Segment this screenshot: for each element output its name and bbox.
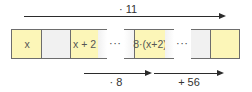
ellipsis-2: ··· (176, 37, 189, 49)
top-arrow-label: · 11 (108, 3, 148, 15)
cell-x-plus-2: x + 2 (70, 29, 99, 59)
cell-x: x (11, 29, 42, 59)
bottom-arrow-2-label: + 56 (172, 76, 206, 88)
cell-empty-2 (191, 29, 211, 59)
bottom-arrow-2-line (154, 73, 218, 74)
bottom-arrow-1-label: · 8 (101, 76, 131, 88)
cell-fade-3 (165, 29, 174, 59)
arrow-right-icon (219, 13, 226, 19)
arrow-right-icon (145, 70, 152, 76)
ellipsis-1: ··· (109, 37, 122, 49)
top-arrow-line (24, 16, 220, 17)
arrow-right-icon (217, 70, 224, 76)
bottom-arrow-1-line (84, 73, 146, 74)
cell-empty-1 (41, 29, 71, 59)
cell-fade-1 (98, 29, 107, 59)
cell-8-times-x-plus-2: 8·(x+2) (134, 29, 166, 59)
cell-empty-3 (210, 29, 240, 59)
